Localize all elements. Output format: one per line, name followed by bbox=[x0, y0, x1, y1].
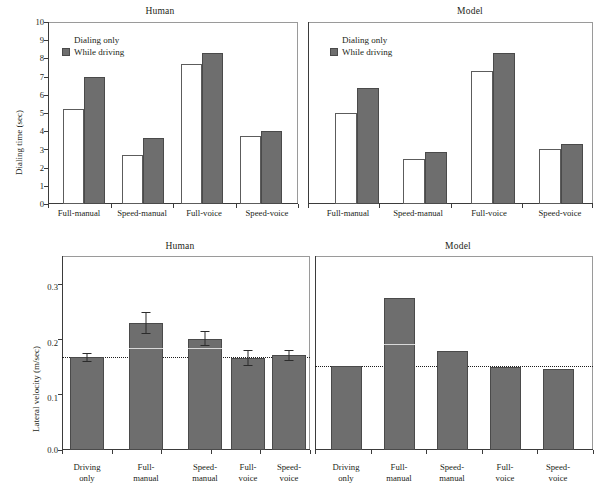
bar-model-speed-voice bbox=[543, 369, 574, 450]
ytick-label-0-1: 0.1 bbox=[36, 394, 58, 403]
xtick-label-line1: Full- bbox=[391, 462, 408, 472]
xtick-label-line1: Driving bbox=[332, 462, 359, 472]
bar-inner-line bbox=[129, 348, 163, 349]
y-axis-human-bottom bbox=[62, 256, 63, 450]
error-bar-human-speed-manual bbox=[188, 331, 222, 346]
bar-model-full-manual bbox=[384, 298, 415, 451]
xtick-label-model-speed-manual: Speed-manual bbox=[381, 208, 455, 219]
legend-filled-square-icon bbox=[330, 48, 338, 56]
xtick-label-line1: Full- bbox=[138, 462, 155, 472]
bar-inner-line bbox=[384, 344, 415, 345]
xtick-label-human-full-manual: Full-manual bbox=[44, 208, 114, 219]
legend-label: While driving bbox=[342, 47, 392, 57]
error-bar-human-full-manual bbox=[129, 312, 163, 334]
xtick-mark bbox=[308, 204, 309, 208]
legend-open-square-icon bbox=[62, 36, 70, 44]
ytick-mark bbox=[44, 95, 48, 96]
bar-human-driving-only bbox=[70, 357, 104, 450]
y-axis-human-top bbox=[48, 22, 49, 204]
ytick-mark bbox=[44, 40, 48, 41]
error-bar-stem bbox=[248, 350, 249, 367]
xtick-mark bbox=[593, 450, 594, 454]
error-bar-cap-top bbox=[83, 353, 92, 354]
ytick-label-7: 7 bbox=[22, 73, 44, 82]
xtick-mark bbox=[112, 450, 113, 454]
bar-model-speed-manual-dialing-only bbox=[403, 159, 425, 205]
xtick-label-line1: Full- bbox=[497, 462, 514, 472]
xtick-mark bbox=[315, 450, 316, 454]
xtick-mark bbox=[310, 450, 311, 454]
ytick-label-0-2: 0.2 bbox=[36, 339, 58, 348]
legend-filled-square-icon bbox=[62, 48, 70, 56]
error-bar-stem bbox=[205, 331, 206, 346]
xtick-mark bbox=[426, 450, 427, 454]
bar-model-full-voice bbox=[490, 367, 521, 450]
bar-human-speed-voice bbox=[272, 355, 306, 450]
error-bar-cap-top bbox=[142, 312, 151, 313]
bar-human-speed-voice-dialing-only bbox=[240, 136, 261, 204]
xtick-label-line2: voice bbox=[280, 473, 299, 483]
ytick-mark bbox=[44, 77, 48, 78]
ytick-mark bbox=[44, 149, 48, 150]
xtick-mark bbox=[62, 450, 63, 454]
ytick-label-0-0: 0.0 bbox=[36, 446, 58, 455]
xtick-mark bbox=[482, 450, 483, 454]
xtick-label-line2: voice bbox=[549, 473, 568, 483]
bar-inner-line bbox=[188, 348, 222, 349]
ytick-label-10: 10 bbox=[22, 18, 44, 27]
bar-model-speed-voice-while-driving bbox=[561, 144, 583, 204]
bar-model-full-voice-dialing-only bbox=[471, 71, 493, 204]
xtick-label-line1: Speed- bbox=[440, 462, 464, 472]
bar-human-full-manual bbox=[129, 323, 163, 451]
panel-title-model-bottom: Model bbox=[398, 241, 518, 251]
ytick-label-0: 0 bbox=[22, 200, 44, 209]
ytick-label-1: 1 bbox=[22, 182, 44, 191]
ytick-label-0-3: 0.3 bbox=[36, 283, 58, 292]
bar-model-driving-only bbox=[331, 366, 362, 450]
xtick-label-model-full-voice: Full-voice bbox=[452, 208, 526, 219]
xtick-label-line2: voice bbox=[496, 473, 515, 483]
error-bar-cap-bottom bbox=[201, 345, 210, 346]
bar-model-full-manual-while-driving bbox=[357, 88, 379, 205]
figure-canvas: Dialing time (sec) Human 10 9 8 7 6 5 4 … bbox=[0, 0, 603, 502]
bar-human-speed-voice-while-driving bbox=[261, 131, 282, 204]
legend-entry-while-driving: While driving bbox=[62, 46, 124, 58]
bar-human-speed-manual-dialing-only bbox=[122, 155, 143, 204]
xtick-label-human-speed-voice: Speed-voice bbox=[232, 208, 302, 219]
ytick-label-9: 9 bbox=[22, 36, 44, 45]
error-bar-cap-top bbox=[201, 331, 210, 332]
panel-title-model-top: Model bbox=[410, 6, 530, 16]
bar-human-full-manual-while-driving bbox=[84, 77, 105, 204]
error-bar-cap-top bbox=[285, 350, 294, 351]
bar-human-speed-manual bbox=[188, 339, 222, 450]
legend-open-square-icon bbox=[330, 36, 338, 44]
error-bar-cap-bottom bbox=[142, 333, 151, 334]
error-bar-human-driving-only bbox=[70, 353, 104, 362]
bar-human-full-manual-dialing-only bbox=[63, 109, 84, 204]
y-axis-label-lateral-velocity: Lateral velocity (m/sec) bbox=[31, 346, 41, 432]
bar-model-full-voice-while-driving bbox=[493, 53, 515, 204]
xtick-label-line2: only bbox=[79, 473, 94, 483]
ytick-label-8: 8 bbox=[22, 54, 44, 63]
bar-human-speed-manual-while-driving bbox=[143, 138, 164, 204]
error-bar-cap-bottom bbox=[244, 365, 253, 366]
ytick-mark bbox=[44, 186, 48, 187]
xtick-label-line1: Speed- bbox=[546, 462, 570, 472]
xtick-label-model-speed-voice: Speed- voice bbox=[523, 462, 593, 483]
ytick-label-5: 5 bbox=[22, 109, 44, 118]
bar-model-speed-voice-dialing-only bbox=[539, 149, 561, 204]
panel-title-human-top: Human bbox=[100, 6, 220, 16]
legend-dialing-time-model: Dialing only While driving bbox=[330, 34, 392, 58]
error-bar-stem bbox=[146, 312, 147, 334]
legend-label: Dialing only bbox=[74, 35, 119, 45]
xtick-label-model-speed-voice: Speed-voice bbox=[523, 208, 597, 219]
error-bar-cap-top bbox=[244, 350, 253, 351]
legend-entry-dialing-only: Dialing only bbox=[330, 34, 392, 46]
xtick-label-line2: manual bbox=[133, 473, 159, 483]
legend-label: While driving bbox=[74, 47, 124, 57]
xtick-mark bbox=[260, 450, 261, 454]
xtick-mark bbox=[371, 450, 372, 454]
ytick-mark bbox=[58, 394, 62, 395]
xtick-label-line1: Driving bbox=[73, 462, 100, 472]
bar-human-full-voice-while-driving bbox=[202, 53, 223, 204]
